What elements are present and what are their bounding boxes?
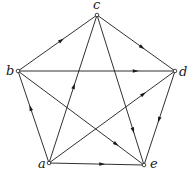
arrowhead-icon (131, 127, 136, 134)
node-label-b: b (6, 63, 14, 78)
node-a (47, 161, 51, 165)
edge-b-c (18, 15, 97, 71)
edges-layer (18, 15, 175, 166)
node-label-a: a (38, 156, 46, 169)
node-label-e: e (150, 156, 158, 169)
edge-a-b (18, 71, 49, 163)
nodes-layer (16, 13, 177, 167)
edge-b-e (18, 71, 144, 165)
edge-c-e (97, 15, 144, 165)
edge-a-d (49, 71, 175, 163)
edge-a-c (49, 15, 97, 163)
edge-a-e (49, 163, 144, 165)
node-b (16, 69, 20, 73)
arrowhead-icon (133, 69, 139, 73)
directed-graph-diagram: abcde (0, 0, 189, 169)
arrowhead-icon (28, 104, 33, 111)
arrowhead-icon (156, 116, 161, 123)
node-label-c: c (93, 0, 101, 12)
edge-c-d (97, 15, 175, 71)
node-d (173, 69, 177, 73)
arrowhead-icon (99, 162, 105, 166)
arrowhead-icon (71, 83, 76, 90)
node-label-d: d (179, 64, 187, 79)
graph-svg: abcde (0, 0, 189, 169)
node-e (142, 163, 146, 167)
labels-layer: abcde (6, 0, 187, 169)
node-c (95, 13, 99, 17)
